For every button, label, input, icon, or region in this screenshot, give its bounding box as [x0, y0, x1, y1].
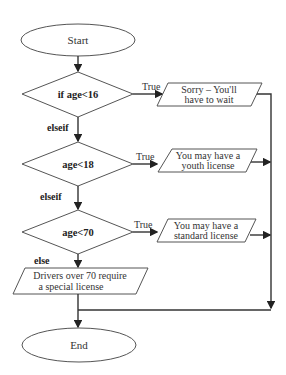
- decision-2-label: age<18: [62, 159, 94, 170]
- output-3-line2: standard license: [174, 230, 239, 241]
- else-output-line2: a special license: [39, 281, 105, 292]
- d1-elseif-label: elseif: [47, 122, 69, 133]
- d2-true-label: True: [136, 151, 155, 162]
- d1-true-label: True: [142, 81, 161, 92]
- connector-right-bus: [257, 94, 271, 308]
- decision-age-under-70: age<70: [22, 210, 133, 254]
- d3-else-label: else: [34, 255, 50, 266]
- decision-1-label: if age<16: [58, 89, 99, 100]
- output-youth-license: You may have a youth license: [158, 149, 257, 172]
- output-sorry-wait: Sorry – You'll have to wait: [157, 83, 262, 106]
- decision-3-label: age<70: [62, 227, 94, 238]
- end-label: End: [70, 339, 88, 351]
- output-standard-license: You may have a standard license: [157, 219, 256, 242]
- output-1-line2: have to wait: [185, 94, 234, 105]
- start-terminal: Start: [21, 24, 135, 56]
- end-terminal: End: [22, 328, 136, 362]
- d2-elseif-label: elseif: [40, 191, 62, 202]
- else-output-line1: Drivers over 70 require: [33, 270, 127, 281]
- decision-age-under-16: if age<16: [22, 72, 133, 117]
- decision-age-under-18: age<18: [22, 142, 133, 186]
- d3-true-label: True: [134, 219, 153, 230]
- output-2-line2: youth license: [181, 160, 235, 171]
- flowchart-canvas: Start if age<16 True Sorry – You'll have…: [0, 0, 286, 375]
- output-special-license: Drivers over 70 require a special licens…: [13, 268, 148, 294]
- start-label: Start: [68, 34, 89, 46]
